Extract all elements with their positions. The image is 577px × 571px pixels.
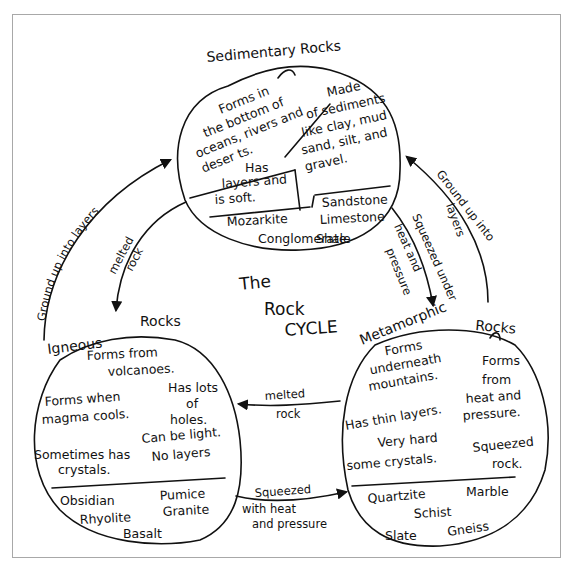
svg-text:Forms: Forms	[482, 353, 520, 368]
svg-text:Schist: Schist	[413, 504, 451, 521]
svg-text:crystals.: crystals.	[58, 462, 110, 477]
igneous-heading-word2: Rocks	[140, 313, 181, 329]
sedimentary-composition-text: Made of sediments like clay, mud sand, s…	[289, 73, 397, 173]
svg-text:Sometimes has: Sometimes has	[34, 447, 130, 462]
svg-text:Basalt: Basalt	[123, 526, 162, 541]
svg-text:Sandstone: Sandstone	[321, 192, 388, 210]
rock-cycle-diagram: Sedimentary Rocks Forms in the bottom of…	[0, 0, 577, 571]
svg-text:Limestone: Limestone	[319, 209, 385, 227]
svg-text:Squeezed: Squeezed	[254, 482, 311, 500]
sedimentary-divider-3	[295, 170, 300, 210]
edge-sedimentary-to-metamorphic: Squeezed under heat and pressure	[383, 208, 460, 305]
node-sedimentary: Sedimentary Rocks Forms in the bottom of…	[178, 37, 400, 250]
svg-text:Mozarkite: Mozarkite	[226, 211, 288, 229]
svg-text:Can be light.: Can be light.	[141, 424, 222, 446]
svg-text:is soft.: is soft.	[214, 189, 256, 207]
svg-text:rock: rock	[276, 407, 301, 421]
svg-text:The: The	[237, 271, 272, 294]
igneous-crystals-text: Sometimes has crystals.	[34, 447, 130, 477]
svg-text:volcanoes.: volcanoes.	[107, 361, 174, 379]
edge-sedimentary-to-igneous: melted rock	[105, 202, 186, 310]
svg-text:Gneiss: Gneiss	[446, 518, 489, 539]
diagram-title: The Rock CYCLE	[237, 271, 338, 340]
node-metamorphic: Metamorphic Rocks Forms underneath mount…	[342, 298, 548, 546]
svg-text:heat and: heat and	[465, 387, 522, 406]
metamorphic-hardness-text: Very hard some crystals.	[346, 430, 438, 473]
svg-text:No layers: No layers	[151, 444, 211, 464]
svg-text:of: of	[186, 396, 199, 411]
svg-text:Rock: Rock	[264, 299, 305, 319]
svg-text:Very hard: Very hard	[377, 430, 438, 450]
svg-text:from: from	[482, 372, 511, 387]
edge-metamorphic-to-igneous: melted rock	[239, 386, 340, 421]
metamorphic-examples: Quartzite Marble Schist Slate Gneiss	[367, 484, 509, 543]
svg-text:Obsidian: Obsidian	[60, 493, 115, 508]
svg-text:Has lots: Has lots	[168, 380, 218, 395]
metamorphic-layers-text: Has thin layers.	[344, 401, 443, 433]
sedimentary-heading-arc	[278, 70, 295, 78]
svg-text:some crystals.: some crystals.	[346, 450, 437, 473]
igneous-holes-text: Has lots of holes.	[168, 380, 218, 427]
igneous-cooling-text: Forms when magma cools.	[41, 389, 130, 427]
edge-igneous-to-metamorphic: Squeezed with heat and pressure	[236, 482, 346, 531]
svg-text:Pumice: Pumice	[159, 486, 205, 503]
igneous-formation-text: Forms from volcanoes.	[86, 344, 174, 379]
svg-text:rock.: rock.	[492, 456, 523, 471]
metamorphic-formation-text: Forms from heat and pressure.	[462, 353, 522, 423]
svg-text:melted: melted	[264, 386, 305, 403]
svg-text:Forms when: Forms when	[44, 389, 121, 409]
svg-text:layers and: layers and	[221, 171, 287, 191]
svg-text:magma cools.: magma cools.	[41, 406, 130, 427]
node-igneous: Igneous Rocks Forms from volcanoes. Form…	[34, 313, 241, 544]
edge-label-ground-up: Ground up into layers	[34, 204, 101, 322]
sedimentary-heading: Sedimentary Rocks	[206, 37, 342, 65]
svg-text:Marble: Marble	[466, 484, 509, 499]
svg-text:Quartzite: Quartzite	[367, 486, 426, 506]
igneous-weight-text: Can be light. No layers	[141, 424, 222, 464]
svg-text:with heat: with heat	[242, 502, 296, 516]
svg-text:Conglomerate: Conglomerate	[258, 231, 347, 246]
svg-text:Forms from: Forms from	[86, 344, 158, 363]
metamorphic-squeezed-text: Squeezed rock.	[472, 434, 535, 471]
svg-text:Slate: Slate	[385, 528, 417, 543]
sedimentary-divider-6	[312, 196, 314, 207]
svg-text:pressure.: pressure.	[462, 404, 521, 423]
svg-text:Rhyolite: Rhyolite	[79, 509, 131, 527]
svg-text:Squeezed: Squeezed	[472, 434, 535, 455]
igneous-examples: Obsidian Pumice Rhyolite Granite Basalt	[60, 486, 210, 541]
svg-text:Granite: Granite	[162, 502, 210, 519]
svg-text:and pressure: and pressure	[252, 517, 327, 531]
svg-text:CYCLE: CYCLE	[284, 316, 338, 340]
